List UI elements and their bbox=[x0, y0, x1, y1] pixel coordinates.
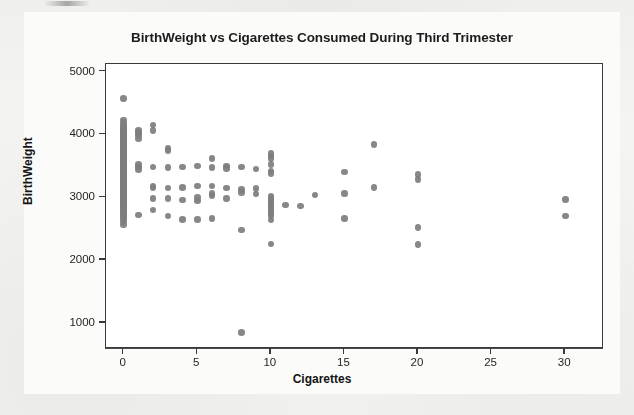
data-point bbox=[562, 196, 569, 203]
data-point bbox=[135, 135, 142, 142]
data-point bbox=[194, 183, 201, 190]
data-point bbox=[341, 215, 348, 222]
data-point bbox=[371, 184, 378, 191]
data-point bbox=[238, 189, 245, 196]
data-point bbox=[150, 127, 157, 134]
y-tick-mark bbox=[99, 133, 105, 135]
x-tick-mark bbox=[196, 348, 198, 354]
data-point bbox=[120, 222, 127, 229]
x-tick-label: 15 bbox=[337, 356, 350, 368]
data-point bbox=[165, 147, 172, 154]
scatter-plot-area bbox=[105, 63, 603, 348]
data-point bbox=[194, 216, 201, 223]
x-tick-mark bbox=[343, 348, 345, 354]
y-tick-mark bbox=[99, 321, 105, 323]
y-tick-label: 1000 bbox=[53, 316, 95, 328]
data-point bbox=[268, 170, 275, 177]
data-point bbox=[165, 185, 172, 192]
x-tick-mark bbox=[122, 348, 124, 354]
x-tick-label: 0 bbox=[119, 356, 125, 368]
y-tick-label: 5000 bbox=[53, 65, 95, 77]
data-point bbox=[150, 164, 157, 171]
data-point bbox=[282, 202, 289, 209]
data-point bbox=[223, 165, 230, 172]
data-point bbox=[415, 241, 422, 248]
x-tick-label: 30 bbox=[558, 356, 571, 368]
data-point bbox=[150, 195, 157, 202]
data-point bbox=[165, 195, 172, 202]
data-point bbox=[268, 241, 275, 248]
data-point bbox=[165, 164, 172, 171]
chart-title: BirthWeight vs Cigarettes Consumed Durin… bbox=[24, 30, 620, 45]
x-tick-label: 5 bbox=[193, 356, 199, 368]
data-point bbox=[253, 191, 260, 198]
data-point bbox=[135, 212, 142, 219]
data-point bbox=[253, 166, 260, 173]
y-tick-mark bbox=[99, 70, 105, 72]
data-point bbox=[341, 190, 348, 197]
y-tick-label: 3000 bbox=[53, 190, 95, 202]
data-point bbox=[415, 176, 422, 183]
data-point bbox=[150, 185, 157, 192]
data-point bbox=[179, 197, 186, 204]
x-axis-line bbox=[105, 348, 603, 349]
data-point bbox=[415, 224, 422, 231]
data-point bbox=[312, 192, 319, 199]
data-point bbox=[209, 215, 216, 222]
y-tick-label: 4000 bbox=[53, 127, 95, 139]
data-point bbox=[209, 193, 216, 200]
data-point bbox=[297, 203, 304, 210]
data-point bbox=[371, 141, 378, 148]
data-point bbox=[223, 185, 230, 192]
data-point bbox=[150, 207, 157, 214]
data-point bbox=[194, 198, 201, 205]
data-point bbox=[120, 95, 127, 102]
data-point bbox=[268, 217, 275, 224]
x-tick-label: 20 bbox=[411, 356, 424, 368]
data-point bbox=[268, 161, 275, 168]
data-point bbox=[238, 164, 245, 171]
data-point bbox=[238, 227, 245, 234]
data-point bbox=[209, 183, 216, 190]
y-tick-mark bbox=[99, 196, 105, 198]
x-axis-label: Cigarettes bbox=[24, 372, 620, 386]
screenshot-page: BirthWeight vs Cigarettes Consumed Durin… bbox=[0, 0, 634, 415]
data-point bbox=[341, 169, 348, 176]
x-tick-label: 10 bbox=[263, 356, 276, 368]
x-tick-mark bbox=[490, 348, 492, 354]
data-point bbox=[135, 166, 142, 173]
data-point bbox=[179, 164, 186, 171]
data-point bbox=[562, 213, 569, 220]
data-point bbox=[194, 163, 201, 170]
chart-figure: BirthWeight vs Cigarettes Consumed Durin… bbox=[24, 12, 620, 394]
y-axis-label: BirthWeight bbox=[21, 137, 35, 205]
data-point bbox=[209, 164, 216, 171]
x-tick-mark bbox=[563, 348, 565, 354]
y-tick-label: 2000 bbox=[53, 253, 95, 265]
data-point bbox=[209, 155, 216, 162]
data-point bbox=[238, 329, 245, 336]
x-tick-mark bbox=[269, 348, 271, 354]
y-tick-mark bbox=[99, 258, 105, 260]
data-point bbox=[223, 195, 230, 202]
data-point bbox=[179, 216, 186, 223]
x-tick-label: 25 bbox=[484, 356, 497, 368]
data-point bbox=[179, 184, 186, 191]
data-point bbox=[165, 213, 172, 220]
scan-artifact bbox=[44, 1, 90, 6]
x-tick-mark bbox=[416, 348, 418, 354]
